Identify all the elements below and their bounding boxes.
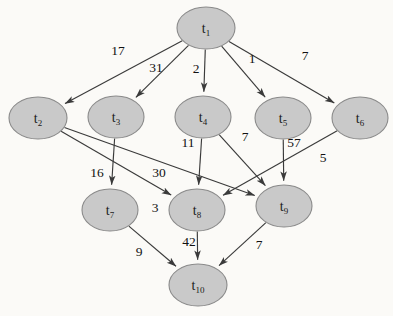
edge-t1-to-t6 xyxy=(229,41,334,103)
node-subscript-t5: 5 xyxy=(283,118,288,128)
graph-svg: t1t2t3t4t5t6t7t8t9t10 173121733016117575… xyxy=(0,0,393,316)
node-t10[interactable]: t10 xyxy=(169,264,227,306)
edge-t1-to-t4 xyxy=(204,49,205,91)
node-subscript-t9: 9 xyxy=(284,206,289,216)
edge-weight-t5-t9: 57 xyxy=(287,135,301,150)
edge-weight-t4-t8: 11 xyxy=(182,135,195,150)
edge-t2-to-t9 xyxy=(64,127,254,195)
node-subscript-t1: 1 xyxy=(206,28,211,38)
node-t8[interactable]: t8 xyxy=(169,189,225,231)
edge-weight-t8-t10: 42 xyxy=(182,234,196,249)
node-t9[interactable]: t9 xyxy=(256,185,312,227)
edge-weight-t9-t10: 7 xyxy=(256,237,263,252)
node-t4[interactable]: t4 xyxy=(175,96,231,138)
edge-weight-t1-t4: 2 xyxy=(193,61,200,76)
edge-t2-to-t8 xyxy=(61,131,171,195)
edge-weight-t1-t3: 31 xyxy=(149,60,163,75)
edge-weight-t1-t5: 1 xyxy=(249,51,256,66)
node-t1[interactable]: t1 xyxy=(177,7,235,49)
edge-weight-t7-t10: 9 xyxy=(136,244,143,259)
edge-weight-t4-t9: 7 xyxy=(242,129,249,144)
edge-weight-t3-t7: 16 xyxy=(90,165,104,180)
node-subscript-t8: 8 xyxy=(197,210,202,220)
node-layer: t1t2t3t4t5t6t7t8t9t10 xyxy=(9,7,388,306)
edge-weight-t1-t2: 17 xyxy=(111,43,125,58)
node-subscript-t2: 2 xyxy=(38,118,43,128)
node-t2[interactable]: t2 xyxy=(9,97,67,139)
node-subscript-t4: 4 xyxy=(203,117,208,127)
node-t5[interactable]: t5 xyxy=(255,97,311,139)
node-t3[interactable]: t3 xyxy=(88,96,144,138)
node-subscript-t7: 7 xyxy=(110,210,115,220)
node-subscript-t3: 3 xyxy=(116,117,121,127)
node-t6[interactable]: t6 xyxy=(332,97,388,139)
edge-t4-to-t8 xyxy=(199,138,202,184)
node-subscript-t10: 10 xyxy=(195,285,205,295)
edge-weight-t1-t6: 7 xyxy=(302,48,309,63)
node-subscript-t6: 6 xyxy=(360,118,365,128)
edge-t1-to-t5 xyxy=(222,46,266,97)
edge-weight-t2-t9: 30 xyxy=(152,165,166,180)
edge-weight-t2-t8: 3 xyxy=(152,200,159,215)
node-t7[interactable]: t7 xyxy=(82,189,138,231)
edge-weight-t6-t8: 5 xyxy=(320,150,327,165)
graph-diagram-canvas: t1t2t3t4t5t6t7t8t9t10 173121733016117575… xyxy=(0,0,393,316)
